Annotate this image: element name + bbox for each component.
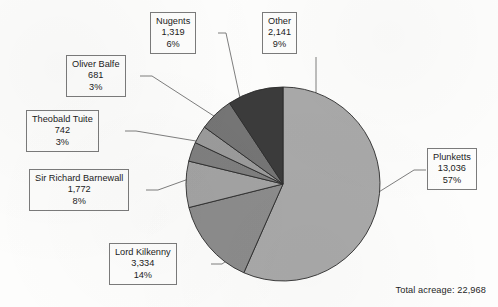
slice-label-percent: 8% xyxy=(35,196,123,207)
pie-chart-canvas xyxy=(0,0,498,307)
slice-label-nugents: Nugents 1,319 6% xyxy=(150,12,196,54)
slice-label-oliver-balfe: Oliver Balfe 681 3% xyxy=(66,55,126,97)
pie-slice-group xyxy=(186,87,380,281)
slice-label-lord-kilkenny: Lord Kilkenny 3,334 14% xyxy=(109,243,177,285)
slice-label-sir-richard-barnewall: Sir Richard Barnewall 1,772 8% xyxy=(29,169,129,211)
slice-label-percent: 57% xyxy=(433,175,471,186)
slice-label-theobald-tuite: Theobald Tuite 742 3% xyxy=(26,110,99,152)
slice-label-percent: 9% xyxy=(268,39,291,50)
slice-label-value: 13,036 xyxy=(433,163,471,174)
slice-label-percent: 3% xyxy=(32,137,93,148)
slice-label-value: 2,141 xyxy=(268,27,291,38)
pie-chart-figure: Nugents 1,319 6% Other 2,141 9% Oliver B… xyxy=(0,0,498,307)
slice-label-percent: 3% xyxy=(72,82,120,93)
slice-label-name: Other xyxy=(268,16,291,27)
slice-label-value: 1,319 xyxy=(156,27,190,38)
slice-label-name: Oliver Balfe xyxy=(72,59,120,70)
slice-label-plunketts: Plunketts 13,036 57% xyxy=(427,148,477,190)
slice-label-name: Nugents xyxy=(156,16,190,27)
slice-label-name: Lord Kilkenny xyxy=(115,247,171,258)
slice-label-value: 1,772 xyxy=(35,184,123,195)
slice-label-value: 742 xyxy=(32,125,93,136)
slice-label-name: Sir Richard Barnewall xyxy=(35,173,123,184)
total-acreage-note: Total acreage: 22,968 xyxy=(396,285,486,295)
slice-label-percent: 14% xyxy=(115,270,171,281)
slice-label-name: Plunketts xyxy=(433,152,471,163)
slice-label-value: 681 xyxy=(72,70,120,81)
slice-label-name: Theobald Tuite xyxy=(32,114,93,125)
slice-label-percent: 6% xyxy=(156,39,190,50)
slice-label-other: Other 2,141 9% xyxy=(262,12,297,54)
slice-label-value: 3,334 xyxy=(115,258,171,269)
